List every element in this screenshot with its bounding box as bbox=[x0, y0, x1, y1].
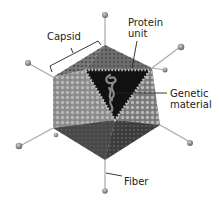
label-protein-unit-line2: unit bbox=[128, 28, 163, 39]
label-fiber: Fiber bbox=[124, 176, 148, 187]
label-fiber-text: Fiber bbox=[124, 176, 148, 187]
label-capsid-text: Capsid bbox=[47, 31, 81, 42]
fiber-upper-right bbox=[152, 47, 180, 68]
label-capsid: Capsid bbox=[47, 31, 81, 42]
fiber-lower-left bbox=[20, 128, 53, 146]
label-genetic-material-line2: material bbox=[170, 99, 212, 110]
fiber-pointer bbox=[106, 173, 122, 176]
label-genetic-material-line1: Genetic bbox=[170, 88, 212, 99]
fiber-upper-left bbox=[28, 63, 53, 77]
label-protein-unit: Protein unit bbox=[128, 17, 163, 39]
virus-diagram: Capsid Protein unit Genetic material Fib… bbox=[0, 0, 219, 206]
label-genetic-material: Genetic material bbox=[170, 88, 212, 110]
fiber-lower-right bbox=[160, 125, 190, 142]
label-protein-unit-line1: Protein bbox=[128, 17, 163, 28]
